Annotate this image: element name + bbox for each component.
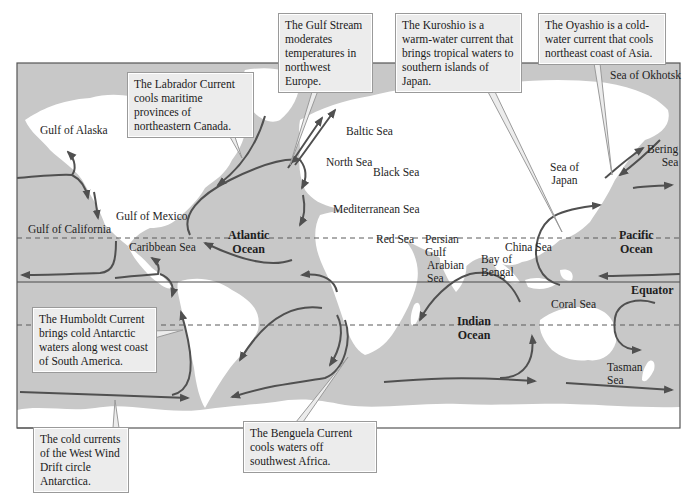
callout-oyashio: The Oyashio is a cold-water current that… bbox=[538, 13, 666, 65]
label-coral-sea: Coral Sea bbox=[551, 298, 596, 311]
callout-benguela-current: The Benguela Current cools waters off so… bbox=[243, 421, 377, 473]
label-black-sea: Black Sea bbox=[373, 166, 419, 179]
callout-gulf-stream: The Gulf Stream moderates temperatures i… bbox=[278, 13, 373, 93]
label-bering-sea: Bering Sea bbox=[647, 143, 678, 169]
label-gulf-of-alaska: Gulf of Alaska bbox=[40, 124, 108, 137]
label-red-sea: Red Sea bbox=[376, 233, 414, 246]
label-north-sea: North Sea bbox=[326, 156, 372, 169]
label-tasman-sea: Tasman Sea bbox=[607, 361, 643, 387]
label-caribbean-sea: Caribbean Sea bbox=[129, 241, 196, 254]
label-arabian-sea: Arabian Sea bbox=[427, 259, 464, 285]
label-baltic-sea: Baltic Sea bbox=[346, 125, 393, 138]
label-pacific-ocean: Pacific Ocean bbox=[619, 228, 654, 256]
callout-kuroshio: The Kuroshio is a warm-water current tha… bbox=[395, 13, 522, 93]
label-gulf-of-mexico: Gulf of Mexico bbox=[116, 210, 188, 223]
label-indian-ocean: Indian Ocean bbox=[457, 314, 491, 342]
label-mediterranean-sea: Mediterranean Sea bbox=[333, 203, 420, 216]
callout-humboldt-current: The Humboldt Current brings cold Antarct… bbox=[32, 307, 157, 373]
label-gulf-of-california: Gulf of California bbox=[28, 223, 111, 236]
callout-labrador-current: The Labrador Current cools maritime prov… bbox=[127, 72, 254, 138]
label-sea-of-japan: Sea of Japan bbox=[550, 161, 579, 187]
callout-west-wind-drift: The cold currents of the West Wind Drift… bbox=[33, 427, 129, 493]
label-china-sea: China Sea bbox=[505, 241, 552, 254]
label-bay-of-bengal: Bay of Bengal bbox=[481, 253, 514, 279]
label-sea-of-okhotsk: Sea of Okhotsk bbox=[610, 69, 681, 82]
label-atlantic-ocean: Atlantic Ocean bbox=[228, 228, 269, 256]
label-persian-gulf: Persian Gulf bbox=[425, 233, 459, 259]
label-equator: Equator bbox=[631, 283, 674, 297]
